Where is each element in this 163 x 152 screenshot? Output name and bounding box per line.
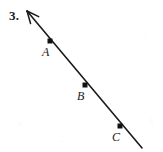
point-label-a: A <box>42 46 49 58</box>
ray-line <box>27 11 142 148</box>
point-marker-c <box>118 124 123 129</box>
problem-number-label: 3. <box>9 9 19 23</box>
point-marker-b <box>83 83 88 88</box>
geometry-figure: 3. A B C <box>0 0 163 152</box>
point-marker-a <box>48 39 53 44</box>
point-label-c: C <box>112 131 120 143</box>
figure-canvas <box>0 0 163 152</box>
point-label-b: B <box>77 90 84 102</box>
